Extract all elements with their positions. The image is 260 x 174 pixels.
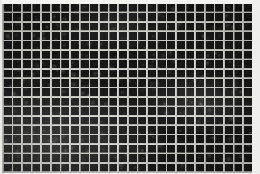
image-canvas xyxy=(0,0,260,174)
grid-plate xyxy=(2,4,252,173)
grid-plate-inner xyxy=(2,4,252,173)
edge-vignette xyxy=(2,4,252,173)
paper-margin-bottom xyxy=(0,173,260,174)
paper-margin-right xyxy=(252,0,260,174)
